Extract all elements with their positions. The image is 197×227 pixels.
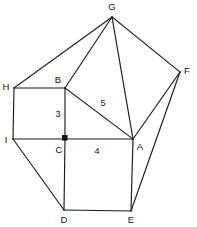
geometry-canvas: 354 GFHBICADE: [0, 0, 197, 227]
vertex-label-g: G: [108, 1, 115, 12]
right-angle-marker-c: [62, 135, 68, 141]
length-labels-group: 354: [55, 98, 105, 156]
edge-D-E: [64, 210, 131, 211]
edges-group: [13, 17, 180, 211]
edge-A-F: [133, 72, 180, 139]
vertex-label-c: C: [56, 144, 63, 155]
vertex-label-e: E: [128, 214, 134, 225]
length-label-ca: 4: [94, 146, 99, 156]
edge-G-A: [112, 17, 133, 139]
right-angle-group: [62, 135, 68, 141]
length-label-ab: 5: [100, 98, 105, 108]
vertex-label-h: H: [3, 81, 10, 92]
edge-B-A-hypotenuse: [65, 88, 133, 139]
vertex-label-d: D: [61, 214, 68, 225]
edge-C-D: [64, 139, 65, 210]
edge-B-G: [65, 17, 112, 88]
edge-H-G: [14, 17, 112, 88]
length-label-bc: 3: [55, 109, 60, 119]
edge-B-I-side-H-I: [13, 88, 14, 139]
vertex-label-f: F: [184, 65, 190, 76]
edge-G-F: [112, 17, 180, 72]
vertex-label-b: B: [55, 74, 61, 85]
vertex-labels-group: GFHBICADE: [3, 1, 191, 225]
edge-E-A: [131, 139, 133, 211]
vertex-label-a: A: [137, 141, 144, 152]
vertex-label-i: I: [5, 134, 8, 145]
geometry-figure: 354 GFHBICADE: [0, 0, 197, 227]
